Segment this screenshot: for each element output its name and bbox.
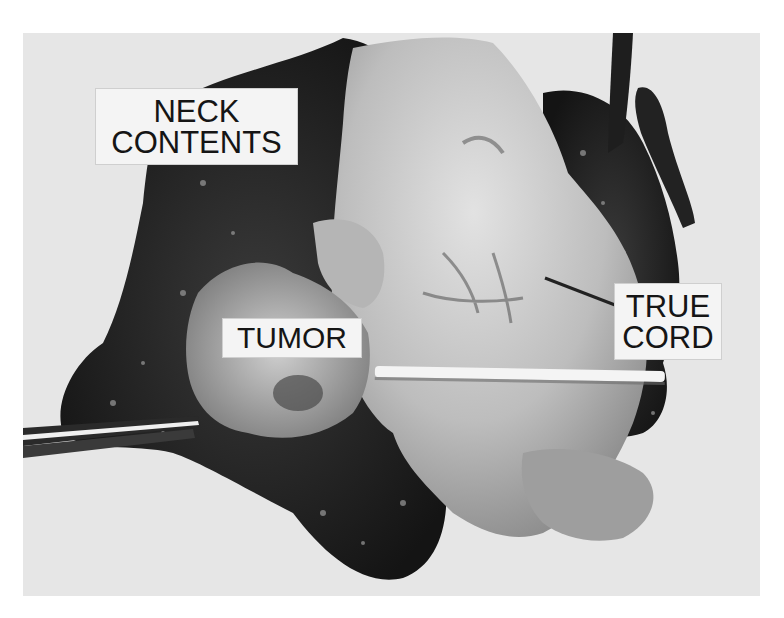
label-neck-contents: NECK CONTENTS [95, 88, 298, 165]
label-cord-line1: TRUE [626, 291, 710, 322]
label-tumor: TUMOR [222, 318, 362, 358]
label-neck-line2: CONTENTS [111, 127, 282, 158]
label-tumor-line1: TUMOR [237, 323, 347, 353]
label-cord-line2: CORD [622, 322, 713, 353]
label-true-cord: TRUE CORD [614, 283, 722, 360]
label-neck-line1: NECK [153, 96, 239, 127]
